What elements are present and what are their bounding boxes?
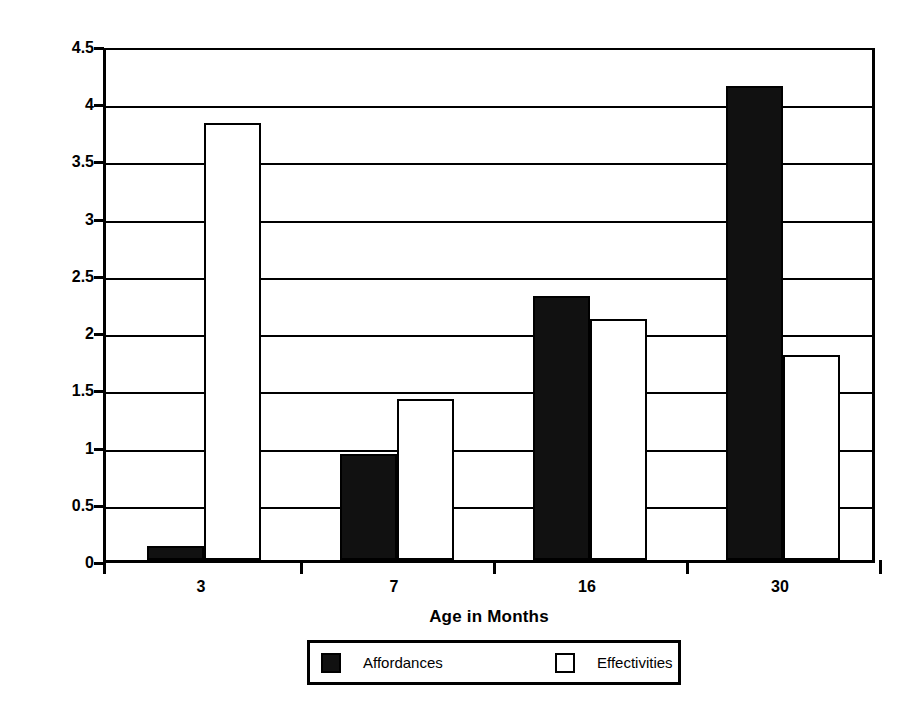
legend-label: Effectivities — [597, 654, 673, 671]
legend-entry-affordances[interactable]: Affordances — [321, 643, 443, 682]
legend-entry-effectivities[interactable]: Effectivities — [555, 643, 673, 682]
bar-effectivities-16 — [590, 319, 647, 560]
outlined-white-square-icon — [555, 653, 575, 673]
x-axis-title: Age in Months — [103, 607, 875, 627]
x-tick-label-30: 30 — [740, 578, 820, 596]
chart-legend: AffordancesEffectivities — [307, 640, 681, 685]
bar-chart: Frequency 00.511.522.533.544.5 371630 Ag… — [0, 0, 915, 726]
x-tick-mark — [686, 560, 689, 574]
bar-effectivities-7 — [397, 399, 454, 560]
x-tick-mark — [879, 560, 882, 574]
bar-affordances-7 — [340, 454, 397, 560]
bar-affordances-16 — [533, 296, 590, 560]
x-tick-mark — [300, 560, 303, 574]
x-tick-label-7: 7 — [354, 578, 434, 596]
gridline — [106, 49, 872, 50]
bar-affordances-30 — [726, 86, 783, 560]
bar-effectivities-30 — [783, 355, 840, 560]
bar-effectivities-3 — [204, 123, 261, 560]
x-tick-mark — [493, 560, 496, 574]
filled-black-square-icon — [321, 653, 341, 673]
plot-area — [103, 48, 875, 563]
bar-affordances-3 — [147, 546, 204, 560]
x-tick-mark-origin — [103, 560, 106, 574]
x-tick-label-16: 16 — [547, 578, 627, 596]
x-tick-label-3: 3 — [161, 578, 241, 596]
legend-label: Affordances — [363, 654, 443, 671]
